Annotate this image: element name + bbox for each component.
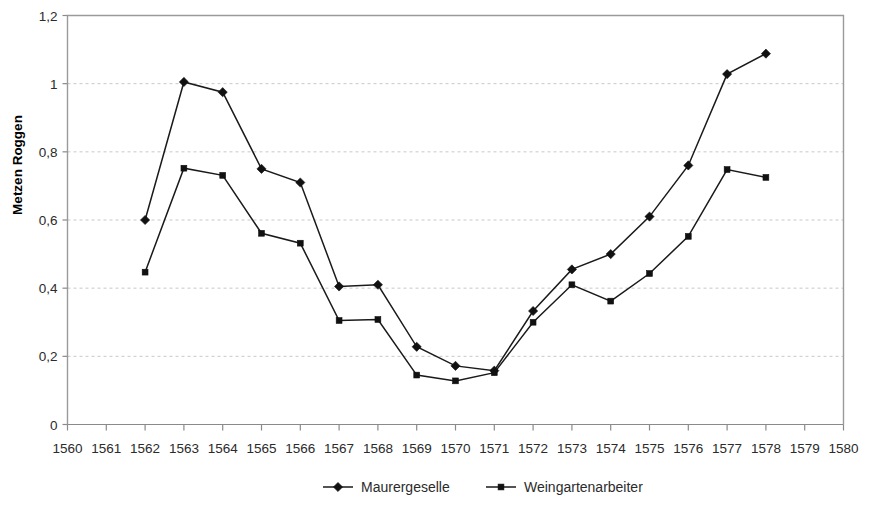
x-tick-label: 1570 [440,441,470,456]
y-tick-label: 1 [50,77,58,92]
data-point-diamond [451,361,460,370]
x-tick-label: 1565 [246,441,276,456]
x-tick-label: 1574 [596,441,627,456]
y-tick-label: 0 [50,418,58,433]
data-point-square [297,240,303,246]
data-point-square [491,370,497,376]
data-series [141,49,771,384]
data-point-diamond [761,49,770,58]
data-point-square [608,298,614,304]
data-point-square [569,282,575,288]
legend-label: Maurergeselle [361,479,450,495]
y-axis-title: Metzen Roggen [10,115,25,215]
data-point-square [181,165,187,171]
data-point-diamond [296,178,305,187]
data-point-diamond [218,88,227,97]
chart-legend: MaurergeselleWeingartenarbeiter [323,479,643,495]
x-tick-label: 1580 [828,441,858,456]
x-tick-label: 1579 [790,441,820,456]
y-axis-tick-labels: 00,20,40,60,811,2 [39,9,58,433]
data-point-diamond [723,70,732,79]
x-tick-label: 1561 [91,441,121,456]
data-point-diamond [333,482,342,491]
data-point-square [375,317,381,323]
x-tick-label: 1577 [712,441,742,456]
chart-container: 00,20,40,60,811,2 1560156115621563156415… [0,0,872,509]
x-tick-label: 1575 [634,441,664,456]
x-tick-label: 1576 [673,441,703,456]
line-chart: 00,20,40,60,811,2 1560156115621563156415… [0,0,872,509]
x-tick-label: 1560 [52,441,82,456]
x-axis-tick-labels: 1560156115621563156415651566156715681569… [52,441,858,456]
x-tick-label: 1566 [285,441,315,456]
data-point-square [259,230,265,236]
y-tick-label: 0,4 [39,281,58,296]
data-point-diamond [141,215,150,224]
series-1 [141,49,771,375]
y-tick-label: 1,2 [39,9,58,24]
data-point-diamond [412,342,421,351]
data-point-square [530,319,536,325]
legend-label: Weingartenarbeiter [524,479,643,495]
data-point-square [414,372,420,378]
x-tick-label: 1568 [363,441,393,456]
data-point-square [647,271,653,277]
x-tick-label: 1564 [208,441,239,456]
data-point-square [142,269,148,275]
y-tick-label: 0,8 [39,145,58,160]
gridlines [68,84,844,357]
y-tick-label: 0,2 [39,349,58,364]
data-point-square [220,172,226,178]
data-point-diamond [257,164,266,173]
x-tick-label: 1578 [751,441,781,456]
x-tick-label: 1563 [169,441,199,456]
data-point-square [453,378,459,384]
legend-item-1[interactable]: Maurergeselle [323,479,450,495]
data-point-diamond [335,282,344,291]
legend-item-2[interactable]: Weingartenarbeiter [486,479,643,495]
x-tick-label: 1569 [402,441,432,456]
x-tick-label: 1572 [518,441,548,456]
data-point-square [763,174,769,180]
series-line [145,54,766,371]
y-axis-title-text: Metzen Roggen [10,115,25,215]
data-point-square [685,233,691,239]
data-point-diamond [179,77,188,86]
x-tick-label: 1567 [324,441,354,456]
x-tick-label: 1573 [557,441,587,456]
series-line [145,168,766,381]
data-point-square [724,167,730,173]
x-tick-label: 1571 [479,441,509,456]
data-point-square [498,484,504,490]
x-tick-label: 1562 [130,441,160,456]
data-point-square [336,318,342,324]
y-tick-label: 0,6 [39,213,58,228]
series-2 [142,165,769,384]
